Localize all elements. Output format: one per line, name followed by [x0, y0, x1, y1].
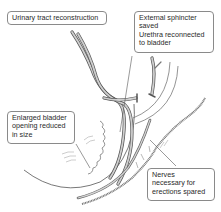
- ureter-tubes: [72, 32, 137, 184]
- callout-nerves-spared: Nerves necessary for erections spared: [147, 168, 215, 201]
- leader-lines: [76, 56, 176, 168]
- callout-text-line: in size: [12, 131, 70, 139]
- callout-text-line: erections spared: [152, 188, 210, 196]
- callout-external-sphincter: External sphincter saved Urethra reconne…: [134, 11, 214, 53]
- callout-text-line: Urinary tract reconstruction: [12, 14, 102, 22]
- rectal-wall: [78, 120, 150, 198]
- urethra-stump: [149, 58, 161, 97]
- bladder-opening-stitches: [88, 121, 105, 174]
- callout-urinary-tract-reconstruction: Urinary tract reconstruction: [7, 11, 107, 25]
- callout-text-line: to bladder: [139, 39, 209, 47]
- callout-bladder-opening: Enlarged bladder opening reduced in size: [7, 111, 75, 144]
- tissue-hatching: [62, 136, 168, 162]
